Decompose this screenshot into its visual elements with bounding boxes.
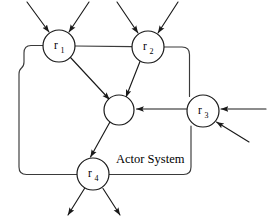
edge-r1-to-center [71,58,110,100]
node-r2-label: r [143,40,147,52]
node-r1-circle[interactable] [43,30,75,62]
actor-system-diagram: r 1 r 2 r 3 r 4 Actor System [0,0,268,223]
boundary-left-segment [19,46,77,175]
node-r1-label: r [54,39,58,51]
node-r3-label: r [198,104,202,116]
node-r4-circle[interactable] [77,158,109,190]
edge-r2-to-center [126,62,140,98]
node-r4[interactable]: r 4 [77,158,109,190]
boundary-right-upper-segment [164,47,190,97]
node-r4-subscript: 4 [95,174,99,183]
node-r1-subscript: 1 [61,46,65,55]
external-arrow-in-r1-left [27,2,49,32]
system-label: Actor System [116,152,185,166]
external-arrow-in-r2-left [117,2,138,33]
actor-system-canvas: r 1 r 2 r 3 r 4 Actor System [0,0,268,223]
edge-center-to-r4 [91,121,111,157]
boundary-right-lower-segment [109,126,191,175]
node-r3[interactable]: r 3 [187,95,219,127]
node-r2[interactable]: r 2 [132,31,164,63]
node-r1[interactable]: r 1 [43,30,75,62]
external-arrow-in-r1-right [69,2,89,32]
external-arrow-out-r4-right [103,189,120,216]
node-r2-circle[interactable] [132,31,164,63]
node-r4-label: r [88,167,92,179]
external-arrow-in-r3-diagonal [217,122,250,142]
node-center-circle[interactable] [104,95,134,125]
external-arrow-in-r2-right [158,2,178,33]
node-r2-subscript: 2 [150,47,154,56]
node-r3-subscript: 3 [205,111,209,120]
node-r3-circle[interactable] [187,95,219,127]
boundary-top-segment [75,46,132,47]
node-center[interactable] [104,95,134,125]
external-arrow-out-r4-left [68,189,85,216]
